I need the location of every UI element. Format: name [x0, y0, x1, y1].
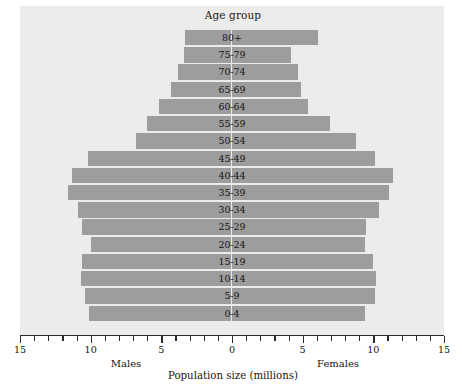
x-axis-major-tick: [232, 336, 233, 343]
x-axis-minor-tick: [260, 336, 261, 341]
pyramid-row: 35-39: [20, 185, 444, 202]
x-axis-minor-tick: [430, 336, 431, 341]
age-group-label: 30-34: [206, 202, 258, 217]
x-axis-minor-tick: [119, 336, 120, 341]
age-group-label: 50-54: [206, 133, 258, 148]
x-axis-minor-tick: [133, 336, 134, 341]
bars-region: 80+75-7970-7465-6960-6455-5950-5445-4940…: [20, 30, 444, 323]
age-group-label: 65-69: [206, 82, 258, 97]
pyramid-row: 75-79: [20, 47, 444, 64]
x-axis-major-tick: [373, 336, 374, 343]
pyramid-row: 40-44: [20, 168, 444, 185]
pyramid-row: 65-69: [20, 82, 444, 99]
x-axis-minor-tick: [317, 336, 318, 341]
pyramid-row: 10-14: [20, 271, 444, 288]
age-group-label: 55-59: [206, 116, 258, 131]
pyramid-row: 15-19: [20, 254, 444, 271]
age-group-label: 5-9: [206, 288, 258, 303]
x-axis-minor-tick: [218, 336, 219, 341]
x-axis-minor-tick: [204, 336, 205, 341]
x-axis-minor-tick: [62, 336, 63, 341]
x-axis-title: Population size (millions): [0, 370, 466, 381]
x-axis-minor-tick: [246, 336, 247, 341]
x-axis-minor-tick: [48, 336, 49, 341]
x-axis-tick-label: 10: [367, 344, 379, 355]
x-axis-minor-tick: [274, 336, 275, 341]
x-axis-minor-tick: [147, 336, 148, 341]
x-axis-tick-label: 10: [85, 344, 97, 355]
x-axis-minor-tick: [387, 336, 388, 341]
pyramid-row: 60-64: [20, 99, 444, 116]
pyramid-row: 5-9: [20, 288, 444, 305]
pyramid-row: 55-59: [20, 116, 444, 133]
x-axis-minor-tick: [105, 336, 106, 341]
x-axis-tick-label: 15: [14, 344, 26, 355]
x-axis-minor-tick: [34, 336, 35, 341]
age-group-label: 35-39: [206, 185, 258, 200]
x-axis-minor-tick: [289, 336, 290, 341]
x-axis-minor-tick: [416, 336, 417, 341]
x-axis-minor-tick: [359, 336, 360, 341]
x-axis-tick-label: 5: [300, 344, 306, 355]
age-group-label: 45-49: [206, 151, 258, 166]
age-group-label: 20-24: [206, 237, 258, 252]
age-group-label: 25-29: [206, 219, 258, 234]
x-axis-minor-tick: [402, 336, 403, 341]
pyramid-row: 70-74: [20, 64, 444, 81]
age-group-label: 75-79: [206, 47, 258, 62]
x-axis-tick-label: 0: [229, 344, 235, 355]
age-group-label: 80+: [206, 30, 258, 45]
x-axis-tick-label: 15: [438, 344, 450, 355]
population-pyramid-figure: Age group 80+75-7970-7465-6960-6455-5950…: [0, 0, 466, 385]
age-group-label: 40-44: [206, 168, 258, 183]
x-axis-major-tick: [161, 336, 162, 343]
chart-title: Age group: [0, 9, 466, 21]
age-group-label: 0-4: [206, 306, 258, 321]
pyramid-row: 80+: [20, 30, 444, 47]
age-group-label: 60-64: [206, 99, 258, 114]
axis-label-females: Females: [317, 358, 359, 369]
x-axis-tick-label: 5: [158, 344, 164, 355]
pyramid-row: 45-49: [20, 151, 444, 168]
x-axis-major-tick: [444, 336, 445, 343]
x-axis-minor-tick: [190, 336, 191, 341]
pyramid-row: 25-29: [20, 219, 444, 236]
x-axis-minor-tick: [345, 336, 346, 341]
pyramid-row: 30-34: [20, 202, 444, 219]
x-axis-major-tick: [303, 336, 304, 343]
age-group-label: 10-14: [206, 271, 258, 286]
pyramid-row: 20-24: [20, 237, 444, 254]
pyramid-row: 50-54: [20, 133, 444, 150]
x-axis-major-tick: [20, 336, 21, 343]
age-group-label: 70-74: [206, 64, 258, 79]
x-axis-major-tick: [91, 336, 92, 343]
age-group-label: 15-19: [206, 254, 258, 269]
axis-label-males: Males: [111, 358, 141, 369]
x-axis-minor-tick: [175, 336, 176, 341]
x-axis-minor-tick: [77, 336, 78, 341]
pyramid-row: 0-4: [20, 306, 444, 323]
x-axis-minor-tick: [331, 336, 332, 341]
